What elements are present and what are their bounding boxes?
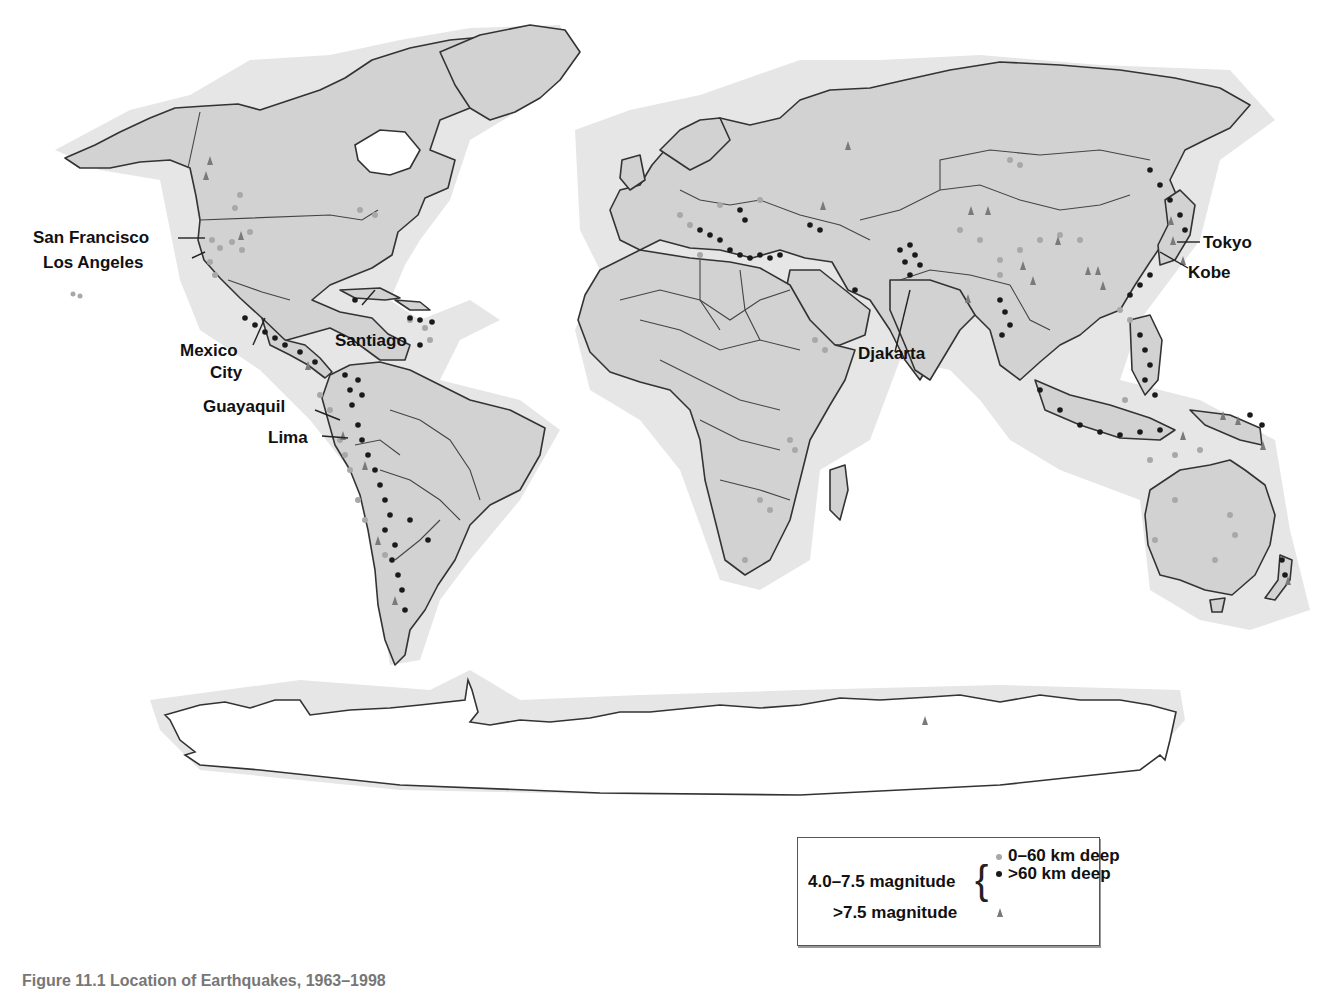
deep-quake-icon: [996, 871, 1002, 877]
label-mexico-city-line2: City: [210, 363, 242, 382]
label-lima: Lima: [268, 428, 308, 447]
label-guayaquil: Guayaquil: [203, 397, 285, 416]
label-tokyo: Tokyo: [1203, 233, 1252, 252]
label-mexico-city-line1: Mexico: [180, 341, 238, 360]
legend: 4.0–7.5 magnitude { 0–60 km deep >60 km …: [797, 837, 1100, 946]
label-san-francisco: San Francisco: [33, 228, 149, 247]
legend-major-label: >7.5 magnitude: [833, 903, 957, 923]
legend-shallow-label: 0–60 km deep: [1008, 846, 1120, 866]
label-los-angeles: Los Angeles: [43, 253, 143, 272]
figure-caption: Figure 11.1 Location of Earthquakes, 196…: [22, 972, 386, 990]
legend-brace: {: [975, 860, 988, 900]
legend-deep-label: >60 km deep: [1008, 864, 1111, 884]
shallow-quake-icon: [996, 854, 1002, 860]
label-djakarta: Djakarta: [858, 344, 925, 363]
label-kobe: Kobe: [1188, 263, 1231, 282]
major-quake-icon: [997, 908, 1003, 917]
label-santiago: Santiago: [335, 331, 407, 350]
australia: [1145, 460, 1275, 595]
legend-moderate-label: 4.0–7.5 magnitude: [808, 872, 955, 892]
